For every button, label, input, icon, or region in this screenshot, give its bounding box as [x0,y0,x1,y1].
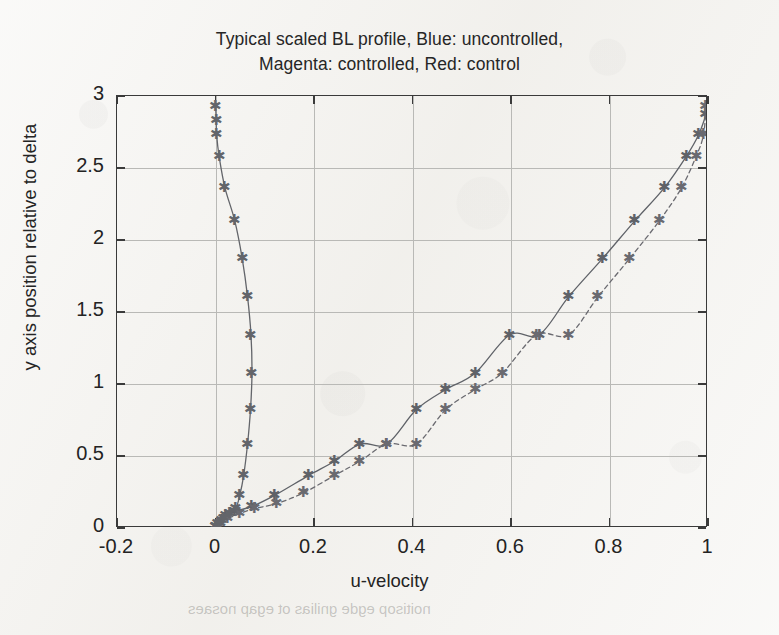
data-series-layer: ✱✱✱✱✱✱✱✱✱✱✱✱✱✱✱✱✱✱✱✱✱✱✱✱✱✱✱✱✱✱✱✱✱✱✱✱✱✱✱✱… [117,96,706,527]
y-tick-label: 0.5 [76,442,104,465]
x-tick-label: -0.2 [76,535,156,558]
data-point-marker: ✱ [623,249,636,266]
data-point-marker: ✱ [218,178,231,195]
data-point-marker: ✱ [562,326,575,343]
data-point-marker: ✱ [228,211,241,228]
chart-title: Typical scaled BL profile, Blue: uncontr… [0,27,779,77]
data-point-marker: ✱ [213,147,226,164]
x-axis-label: u-velocity [0,570,779,592]
data-point-marker: ✱ [410,400,423,417]
chart-title-line-2: Magenta: controlled, Red: control [0,52,779,77]
series-uncontrolled: ✱✱✱✱✱✱✱✱✱✱✱✱✱✱✱✱✱✱✱✱✱✱✱ [209,105,706,526]
series-controlled: ✱✱✱✱✱✱✱✱✱✱✱✱✱✱✱✱✱✱✱✱✱✱✱ [209,97,706,527]
x-tick-label: 1 [667,535,747,558]
data-point-marker: ✱ [439,380,452,397]
data-point-marker: ✱ [353,435,366,452]
y-tick-mark [117,527,125,529]
plot-area: ✱✱✱✱✱✱✱✱✱✱✱✱✱✱✱✱✱✱✱✱✱✱✱✱✱✱✱✱✱✱✱✱✱✱✱✱✱✱✱✱… [116,95,707,527]
data-point-marker: ✱ [244,400,257,417]
chart-title-line-1: Typical scaled BL profile, Blue: uncontr… [0,27,779,52]
data-point-marker: ✱ [353,452,366,469]
x-tick-label: 0 [175,535,255,558]
data-point-marker: ✱ [233,486,246,503]
y-tick-label: 2 [93,226,104,249]
y-tick-mark [698,527,706,529]
data-point-marker: ✱ [248,499,261,516]
series-control: ✱✱✱✱✱✱✱✱✱✱✱✱✱✱✱✱✱✱✱ [209,97,259,527]
data-point-marker: ✱ [469,364,482,381]
data-point-marker: ✱ [699,97,705,114]
page-bleed-through-text: noitisop egde gnilias ot egap nosaes [188,600,431,617]
y-tick-label: 3 [93,82,104,105]
data-point-marker: ✱ [410,435,423,452]
data-point-marker: ✱ [653,211,666,228]
data-point-marker: ✱ [503,326,516,343]
data-point-marker: ✱ [675,178,688,195]
x-tick-mark [707,518,709,526]
data-point-marker: ✱ [302,466,315,483]
data-point-marker: ✱ [530,326,543,343]
data-point-marker: ✱ [562,287,575,304]
data-point-marker: ✱ [209,97,222,114]
x-tick-label: 0.8 [569,535,649,558]
y-axis-label: y axis position relative to delta [19,12,41,482]
data-point-marker: ✱ [241,435,254,452]
y-tick-label: 2.5 [76,154,104,177]
data-point-marker: ✱ [270,494,283,511]
series-line-control [215,106,252,526]
data-point-marker: ✱ [380,435,393,452]
data-point-marker: ✱ [658,178,671,195]
data-point-marker: ✱ [496,364,509,381]
series-line-controlled [215,106,706,526]
x-tick-mark [707,96,709,104]
data-point-marker: ✱ [236,249,249,266]
data-point-marker: ✱ [690,147,703,164]
x-tick-label: 0.6 [470,535,550,558]
data-point-marker: ✱ [297,483,310,500]
data-point-marker: ✱ [244,326,257,343]
y-tick-label: 0 [93,514,104,537]
data-point-marker: ✱ [241,287,254,304]
data-point-marker: ✱ [596,249,609,266]
data-point-marker: ✱ [237,466,250,483]
x-tick-label: 0.4 [372,535,452,558]
data-point-marker: ✱ [697,125,706,142]
data-point-marker: ✱ [439,400,452,417]
data-point-marker: ✱ [328,466,341,483]
y-tick-label: 1 [93,370,104,393]
chart-figure: Typical scaled BL profile, Blue: uncontr… [0,0,779,635]
data-point-marker: ✱ [592,287,605,304]
x-tick-label: 0.2 [273,535,353,558]
data-point-marker: ✱ [628,211,641,228]
data-point-marker: ✱ [469,380,482,397]
data-point-marker: ✱ [245,364,258,381]
series-line-uncontrolled [215,115,706,527]
y-tick-label: 1.5 [76,298,104,321]
